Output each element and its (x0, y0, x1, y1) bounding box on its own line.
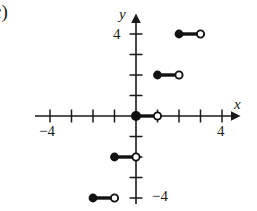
step-segment-5 (175, 30, 204, 39)
step-segment-2 (110, 153, 139, 162)
closed-endpoint-dot (175, 30, 184, 39)
axis-group (35, 14, 241, 205)
closed-endpoint-dot (153, 71, 162, 80)
y-axis-name-label: y (119, 7, 126, 22)
step-segment-3 (131, 111, 161, 121)
open-endpoint-circle (154, 112, 161, 119)
open-endpoint-circle (111, 194, 118, 201)
coordinate-plot (0, 0, 257, 211)
x-axis-arrowhead (231, 111, 241, 121)
open-endpoint-circle (197, 30, 204, 37)
closed-endpoint-dot (110, 153, 119, 162)
open-endpoint-circle (175, 71, 182, 78)
step-segment-4 (153, 71, 182, 80)
x-tick-label--4: −4 (39, 124, 55, 139)
y-axis-arrowhead (131, 14, 141, 24)
closed-endpoint-dot (131, 111, 141, 121)
y-tick-label--4: −4 (152, 189, 168, 204)
open-endpoint-circle (132, 153, 139, 160)
x-axis-name-label: x (234, 97, 241, 112)
closed-endpoint-dot (89, 194, 98, 203)
y-tick-label-4: 4 (113, 27, 121, 42)
figure-panel: c) (0, 0, 257, 211)
step-segment-1 (89, 194, 119, 203)
x-tick-label-4: 4 (217, 124, 225, 139)
